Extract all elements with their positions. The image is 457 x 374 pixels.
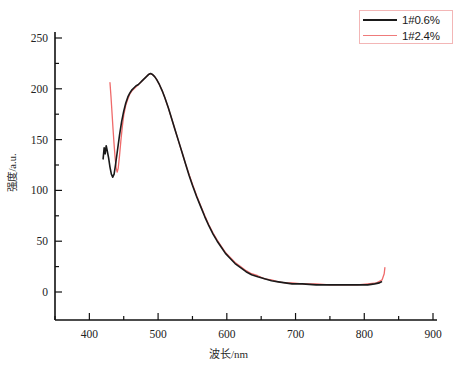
x-tick-label: 700 [287, 328, 304, 340]
x-tick-label: 600 [218, 328, 235, 340]
x-tick-label: 400 [81, 328, 98, 340]
series-line-0 [103, 74, 381, 285]
legend-item-0: 1#0.6% [360, 11, 454, 28]
plot-canvas [0, 0, 457, 374]
x-tick-label: 800 [356, 328, 373, 340]
legend-swatch-line-icon [363, 19, 397, 21]
y-tick-label: 0 [15, 286, 48, 298]
y-tick-label: 200 [15, 83, 48, 95]
legend: 1#0.6% 1#2.4% [359, 10, 453, 44]
x-tick-label: 900 [424, 328, 441, 340]
chart-figure: 强度/a.u. 波长/nm 1#0.6% 1#2.4% 400500600700… [0, 0, 457, 374]
legend-label-1: 1#2.4% [402, 30, 440, 42]
x-tick-label: 500 [149, 328, 166, 340]
y-tick-label: 150 [15, 134, 48, 146]
y-tick-label: 100 [15, 184, 48, 196]
x-axis-title: 波长/nm [0, 345, 457, 361]
y-tick-label: 250 [15, 32, 48, 44]
y-tick-label: 50 [15, 235, 48, 247]
legend-swatch-line-icon [363, 35, 397, 36]
legend-label-0: 1#0.6% [402, 14, 440, 26]
series-line-1 [110, 74, 385, 285]
legend-item-1: 1#2.4% [360, 27, 454, 44]
